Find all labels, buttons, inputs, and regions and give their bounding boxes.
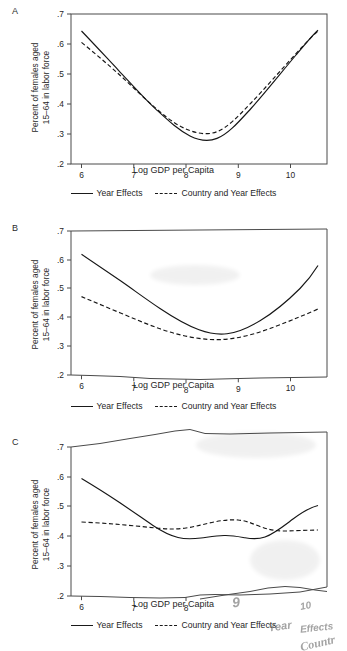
legend-label-country-and-year-effects: Country and Year Effects: [181, 401, 276, 411]
panel-a: A Percent of females aged 15–64 in labor…: [0, 0, 347, 215]
panel-a-curve-country-and-year-effects: [82, 31, 319, 134]
panel-b-y-ticks: .2 .3 .4 .5 .6 .7: [57, 226, 71, 380]
svg-text:.4: .4: [57, 531, 64, 541]
legend-label-year-effects: Year Effects: [97, 620, 143, 630]
svg-text:.6: .6: [57, 39, 64, 49]
legend-entry-country-and-year-effects: Country and Year Effects: [155, 620, 276, 630]
panel-b-curve-country-and-year-effects: [82, 297, 319, 340]
svg-text:.7: .7: [57, 442, 64, 452]
panel-a-x-axis-label: Log GDP per Capita: [0, 165, 347, 175]
panel-c-scan-fold-line: [200, 587, 327, 600]
panel-a-legend: Year Effects Country and Year Effects: [0, 188, 347, 198]
scan-smudge-top: [196, 432, 316, 458]
svg-text:.6: .6: [57, 472, 64, 482]
panel-a-curve-year-effects: [82, 30, 319, 140]
legend-swatch-solid-icon: [71, 406, 93, 407]
panel-c-legend: Year Effects Country and Year Effects: [0, 620, 347, 630]
panel-b-plot: .2 .3 .4 .5 .6 .7 6 7 8 9 10: [0, 215, 347, 397]
legend-label-country-and-year-effects: Country and Year Effects: [181, 620, 276, 630]
panel-c-curve-country-and-year-effects: [82, 520, 319, 531]
panel-b-legend: Year Effects Country and Year Effects: [0, 401, 347, 411]
svg-text:.7: .7: [57, 9, 64, 19]
svg-text:.7: .7: [57, 226, 64, 236]
legend-label-year-effects: Year Effects: [97, 188, 143, 198]
legend-entry-year-effects: Year Effects: [71, 620, 143, 630]
scan-smudge-mid: [150, 265, 240, 285]
svg-text:.2: .2: [57, 370, 64, 380]
panel-b-frame: [71, 229, 327, 380]
panel-c-curve-year-effects: [82, 479, 319, 539]
svg-text:.3: .3: [57, 341, 64, 351]
svg-text:.6: .6: [57, 255, 64, 265]
legend-entry-country-and-year-effects: Country and Year Effects: [155, 401, 276, 411]
panel-a-y-ticks: .2 .3 .4 .5 .6 .7: [57, 9, 71, 169]
legend-swatch-dashed-icon: [155, 625, 177, 626]
panel-b-x-axis-label: Log GDP per Capita: [0, 380, 347, 390]
panel-c-plot: .2 .3 .4 .5 .6 .7 6 7 8: [0, 427, 347, 623]
panel-c-y-ticks: .2 .3 .4 .5 .6 .7: [57, 442, 71, 601]
svg-text:.3: .3: [57, 129, 64, 139]
scan-smudge-lower: [250, 540, 320, 580]
svg-text:.5: .5: [57, 283, 64, 293]
legend-label-year-effects: Year Effects: [97, 401, 143, 411]
scan-ghost-x-tick-9: 9: [231, 594, 241, 611]
panel-c-x-axis-label: Log GDP per Capita: [0, 599, 347, 609]
panel-a-plot: .2 .3 .4 .5 .6 .7 6 7 8 9 10: [0, 0, 347, 185]
panel-b: B Percent of females aged 15–64 in labor…: [0, 215, 347, 427]
svg-text:.3: .3: [57, 561, 64, 571]
legend-label-country-and-year-effects: Country and Year Effects: [181, 188, 276, 198]
legend-entry-country-and-year-effects: Country and Year Effects: [155, 188, 276, 198]
legend-entry-year-effects: Year Effects: [71, 188, 143, 198]
scan-ghost-x-tick-10: 10: [299, 599, 312, 612]
svg-text:.4: .4: [57, 99, 64, 109]
figure-three-panel-labor-force: A Percent of females aged 15–64 in labor…: [0, 0, 347, 651]
legend-swatch-solid-icon: [71, 625, 93, 626]
legend-entry-year-effects: Year Effects: [71, 401, 143, 411]
svg-text:.5: .5: [57, 69, 64, 79]
svg-text:.4: .4: [57, 312, 64, 322]
panel-a-frame: [71, 14, 327, 164]
panel-c: C Percent of females aged 15–64 in labor…: [0, 427, 347, 651]
legend-swatch-dashed-icon: [155, 193, 177, 194]
legend-swatch-dashed-icon: [155, 406, 177, 407]
legend-swatch-solid-icon: [71, 193, 93, 194]
svg-text:.5: .5: [57, 501, 64, 511]
